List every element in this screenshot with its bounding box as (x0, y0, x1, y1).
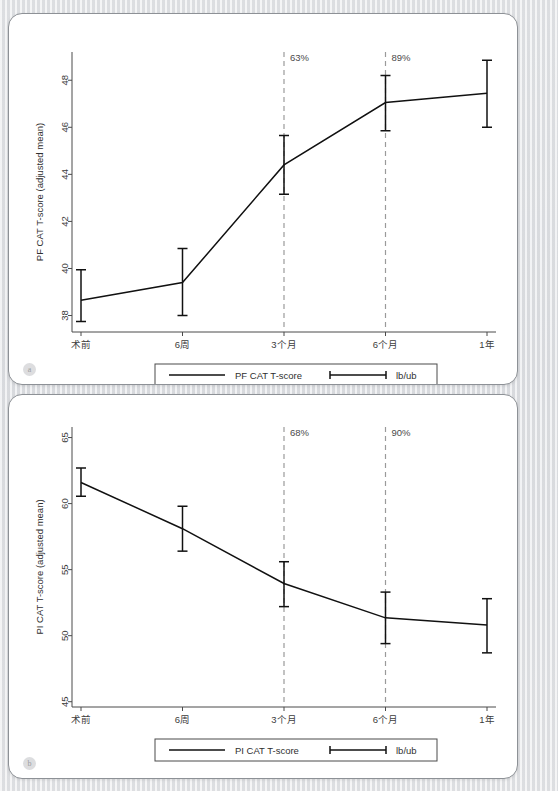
y-axis-tick-label: 48 (60, 75, 71, 86)
plot-area-a: 384042444648PF CAT T-score (adjusted mea… (9, 14, 517, 384)
annotation-percent-label: 89% (392, 52, 412, 63)
y-axis-tick-label: 44 (60, 169, 71, 180)
legend-label-bounds: lb/ub (396, 745, 417, 756)
annotation-percent-label: 68% (290, 427, 310, 438)
annotation-percent-label: 63% (290, 52, 310, 63)
x-axis-tick-label: 6周 (175, 339, 190, 350)
x-axis-tick-label: 术前 (71, 339, 91, 350)
x-axis-tick-label: 术前 (71, 714, 91, 725)
y-axis-tick-label: 38 (60, 310, 71, 321)
y-axis-tick-label: 45 (60, 696, 71, 707)
x-axis-tick-label: 3个月 (271, 339, 296, 350)
y-axis-tick-label: 42 (60, 216, 71, 227)
panel-badge-a: a (23, 363, 36, 376)
y-axis-tick-label: 55 (60, 564, 71, 575)
x-axis-tick-label: 6个月 (373, 714, 398, 725)
chart-panel-a: 384042444648PF CAT T-score (adjusted mea… (8, 13, 518, 385)
x-axis-tick-label: 6个月 (373, 339, 398, 350)
chart-svg-a: 384042444648PF CAT T-score (adjusted mea… (9, 14, 517, 384)
y-axis-title: PI CAT T-score (adjusted mean) (34, 499, 45, 634)
y-axis-tick-label: 46 (60, 122, 71, 133)
x-axis-tick-label: 3个月 (271, 714, 296, 725)
x-axis-tick-label: 1年 (479, 714, 494, 725)
legend-label-series: PI CAT T-score (235, 745, 299, 756)
y-axis-title: PF CAT T-score (adjusted mean) (34, 123, 45, 261)
x-axis-tick-label: 6周 (175, 714, 190, 725)
annotation-percent-label: 90% (392, 427, 412, 438)
y-axis-tick-label: 50 (60, 630, 71, 641)
panel-badge-b: b (23, 757, 36, 770)
y-axis-tick-label: 65 (60, 432, 71, 443)
legend-label-bounds: lb/ub (396, 370, 417, 381)
y-axis-tick-label: 60 (60, 498, 71, 509)
legend-label-series: PF CAT T-score (235, 370, 302, 381)
y-axis-tick-label: 40 (60, 263, 71, 274)
plot-area-b: 4550556065PI CAT T-score (adjusted mean)… (9, 395, 517, 778)
chart-svg-b: 4550556065PI CAT T-score (adjusted mean)… (9, 395, 517, 778)
chart-panel-b: 4550556065PI CAT T-score (adjusted mean)… (8, 394, 518, 779)
x-axis-tick-label: 1年 (479, 339, 494, 350)
